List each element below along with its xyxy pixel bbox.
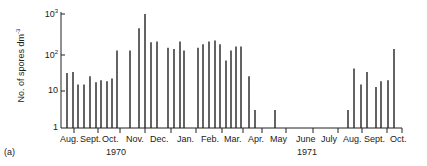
ytick-10: 10 bbox=[36, 85, 58, 95]
bars bbox=[67, 14, 394, 128]
panel-label: (a) bbox=[4, 147, 15, 157]
x-ticks bbox=[74, 128, 402, 133]
ytick-1000: 103 bbox=[36, 8, 58, 19]
month-label: Dec. bbox=[150, 134, 169, 144]
month-label: Feb. bbox=[201, 134, 219, 144]
month-label: Sept. bbox=[364, 134, 385, 144]
month-label: Apr. bbox=[248, 134, 264, 144]
month-label: May bbox=[270, 134, 287, 144]
month-label: Aug. bbox=[343, 134, 362, 144]
month-label: July bbox=[321, 134, 337, 144]
ytick-1: 1 bbox=[36, 122, 58, 132]
year-label-1970: 1970 bbox=[106, 147, 126, 157]
y-axis-label: No. of spores dm-3 bbox=[15, 26, 26, 106]
year-label-1971: 1971 bbox=[297, 147, 317, 157]
month-label: Nov. bbox=[126, 134, 144, 144]
month-label: June bbox=[296, 134, 316, 144]
month-label: Sept. bbox=[80, 134, 101, 144]
month-label: Aug. bbox=[60, 134, 79, 144]
month-label: Mar. bbox=[224, 134, 242, 144]
month-label: Oct. bbox=[102, 134, 119, 144]
month-label: Jan. bbox=[177, 134, 194, 144]
ytick-100: 102 bbox=[36, 49, 58, 60]
month-label: Oct. bbox=[390, 134, 407, 144]
